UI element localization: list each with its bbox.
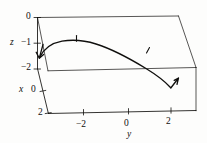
z-axis-title: z (10, 38, 14, 48)
x-tick-label-0: 0 (31, 85, 36, 95)
z-tick-label-0: 0 (26, 12, 31, 22)
box-frame (38, 16, 197, 114)
x-axis-title: x (19, 85, 23, 95)
y-tick-label-0: 0 (124, 119, 129, 129)
y-tick-label-minus2: −2 (76, 120, 86, 130)
curve-marker-2 (147, 48, 150, 54)
curve-arrowheads (36, 45, 178, 89)
y-axis-line (48, 111, 196, 114)
z-tick-label-minus2: −2 (21, 63, 31, 73)
y-tick-label-2: 2 (166, 117, 171, 127)
arrow-right-icon (171, 78, 179, 88)
box-top-right-edge (179, 16, 197, 68)
data-curve (40, 40, 171, 87)
plot-figure: 0 −1 −2 z 0 2 x −2 0 2 y (0, 0, 207, 143)
x-tick-label-2: 2 (38, 108, 43, 118)
z-tick-label-minus1: −1 (21, 38, 31, 48)
data-curve-group (40, 40, 171, 87)
x-tick-0 (40, 90, 46, 91)
axis-ticks (34, 18, 171, 116)
y-axis-title: y (127, 130, 131, 140)
box-back-bottom-edge (48, 68, 196, 71)
box-top-back-edge (38, 16, 179, 18)
